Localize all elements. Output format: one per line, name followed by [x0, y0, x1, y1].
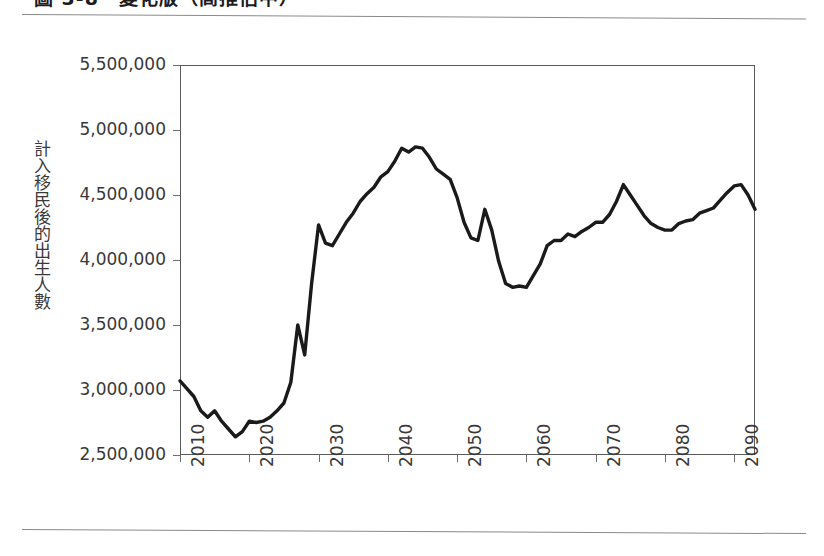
- x-tick-mark: [596, 455, 597, 462]
- y-tick-label: 3,000,000: [48, 379, 166, 399]
- series-line: [180, 65, 755, 455]
- y-tick-mark: [173, 195, 180, 196]
- y-tick-label: 4,000,000: [48, 249, 166, 269]
- x-tick-mark: [734, 455, 735, 462]
- y-tick-label: 5,500,000: [48, 54, 166, 74]
- x-tick-mark: [526, 455, 527, 462]
- y-tick-label: 2,500,000: [48, 444, 166, 464]
- y-tick-mark: [173, 455, 180, 456]
- line-chart: 2,500,0003,000,0003,500,0004,000,0004,50…: [0, 0, 824, 556]
- x-tick-mark: [319, 455, 320, 462]
- x-tick-mark: [249, 455, 250, 462]
- x-tick-mark: [665, 455, 666, 462]
- y-tick-label: 4,500,000: [48, 184, 166, 204]
- x-tick-mark: [457, 455, 458, 462]
- y-tick-mark: [173, 130, 180, 131]
- y-tick-mark: [173, 325, 180, 326]
- y-tick-label: 3,500,000: [48, 314, 166, 334]
- x-tick-mark: [388, 455, 389, 462]
- y-tick-mark: [173, 260, 180, 261]
- y-tick-mark: [173, 65, 180, 66]
- data-line: [180, 147, 755, 437]
- y-tick-label: 5,000,000: [48, 119, 166, 139]
- figure-page: 圖 3-8 變化版（高推估中） 計入移民後的出生人數 2,500,0003,00…: [0, 0, 824, 556]
- y-tick-mark: [173, 390, 180, 391]
- x-tick-mark: [180, 455, 181, 462]
